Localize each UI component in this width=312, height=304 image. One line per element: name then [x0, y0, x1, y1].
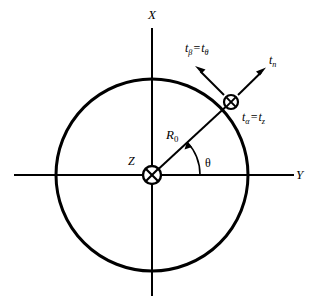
tangential-vector-label: tβ=tθ [185, 42, 209, 57]
normal-vector-arrowhead [256, 68, 266, 76]
normal-vector-line [238, 73, 261, 96]
x-axis-label: X [148, 8, 156, 21]
origin-marker [143, 166, 161, 184]
radius-label-subscript: 0 [174, 134, 178, 144]
normal-label-sub: n [272, 60, 276, 69]
theta-label: θ [205, 157, 211, 169]
z-origin-label: Z [128, 155, 135, 167]
point-label: tα=tz [242, 111, 265, 126]
point-label-sub2: z [262, 117, 265, 126]
point-marker [224, 95, 238, 109]
tangential-vector-line [201, 72, 225, 96]
diagram-canvas: X Y Z R0 θ tβ=tθ tn tα=tz [0, 0, 312, 304]
diagram-vector-graphics [0, 0, 312, 304]
radius-label-letter: R [166, 127, 174, 142]
tangential-label-equals: = [192, 41, 201, 55]
radius-label: R0 [166, 128, 178, 144]
y-axis-label: Y [296, 168, 303, 181]
tangential-label-sub2: θ [205, 48, 209, 57]
radius-line [152, 102, 231, 175]
point-label-sub1: α [245, 117, 249, 126]
normal-vector-label: tn [269, 54, 276, 69]
